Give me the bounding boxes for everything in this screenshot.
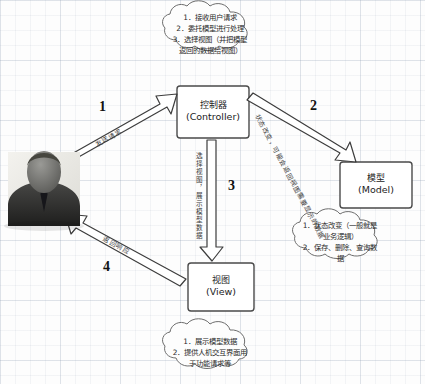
cloud-view-notes xyxy=(163,319,248,369)
user-avatar-icon xyxy=(4,151,84,231)
arrow-4-number: 4 xyxy=(103,259,110,275)
diagram-canvas: 控制器 (Controller) 模型 (Model) 视图 (View) 1．… xyxy=(0,0,425,384)
arrow-3-select-view xyxy=(200,140,223,261)
box-model xyxy=(340,162,412,208)
cloud-controller-notes xyxy=(163,1,248,51)
arrow-3-number: 3 xyxy=(228,178,235,194)
arrow-3-label: 选择视图，展示模型数据 xyxy=(194,152,201,240)
arrow-2-number: 2 xyxy=(310,98,317,114)
box-controller xyxy=(177,86,249,138)
diagram-vector-layer xyxy=(0,0,425,384)
arrow-1-number: 1 xyxy=(99,99,106,115)
box-view xyxy=(188,263,254,311)
